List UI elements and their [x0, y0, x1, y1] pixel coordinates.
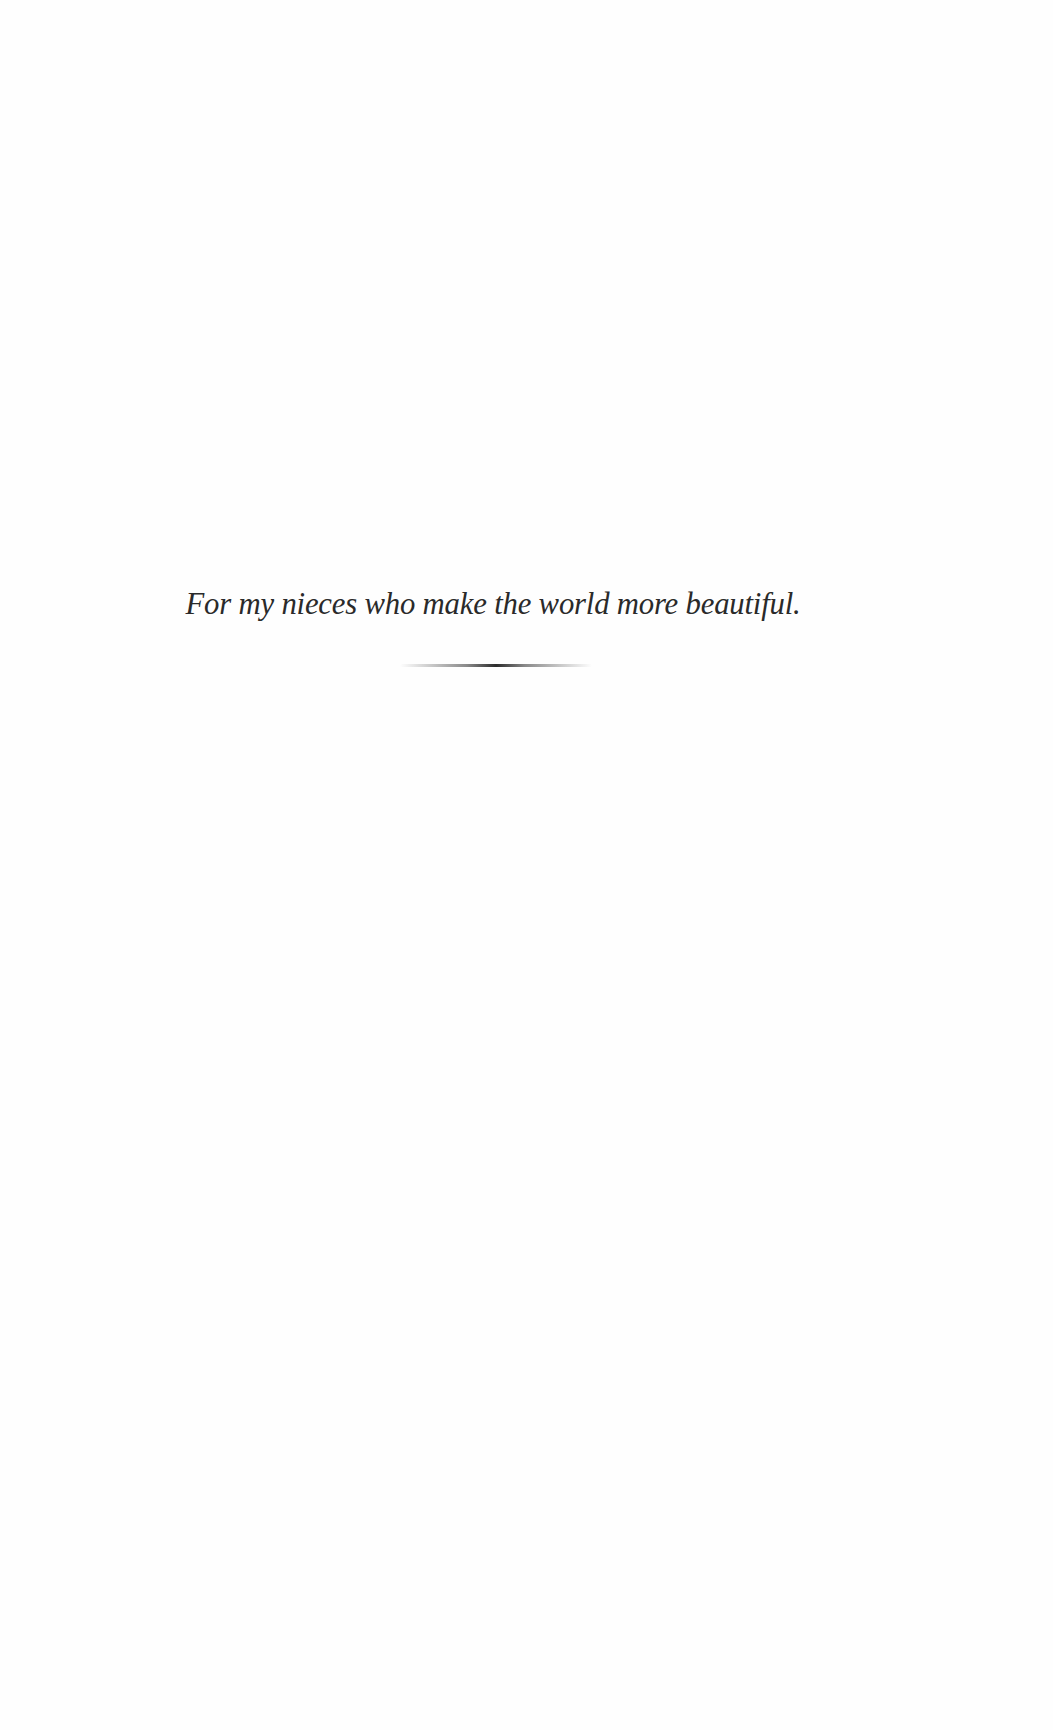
- dedication-text: For my nieces who make the world more be…: [109, 583, 877, 623]
- book-page: For my nieces who make the world more be…: [0, 0, 1053, 1730]
- ornamental-divider: [400, 664, 592, 667]
